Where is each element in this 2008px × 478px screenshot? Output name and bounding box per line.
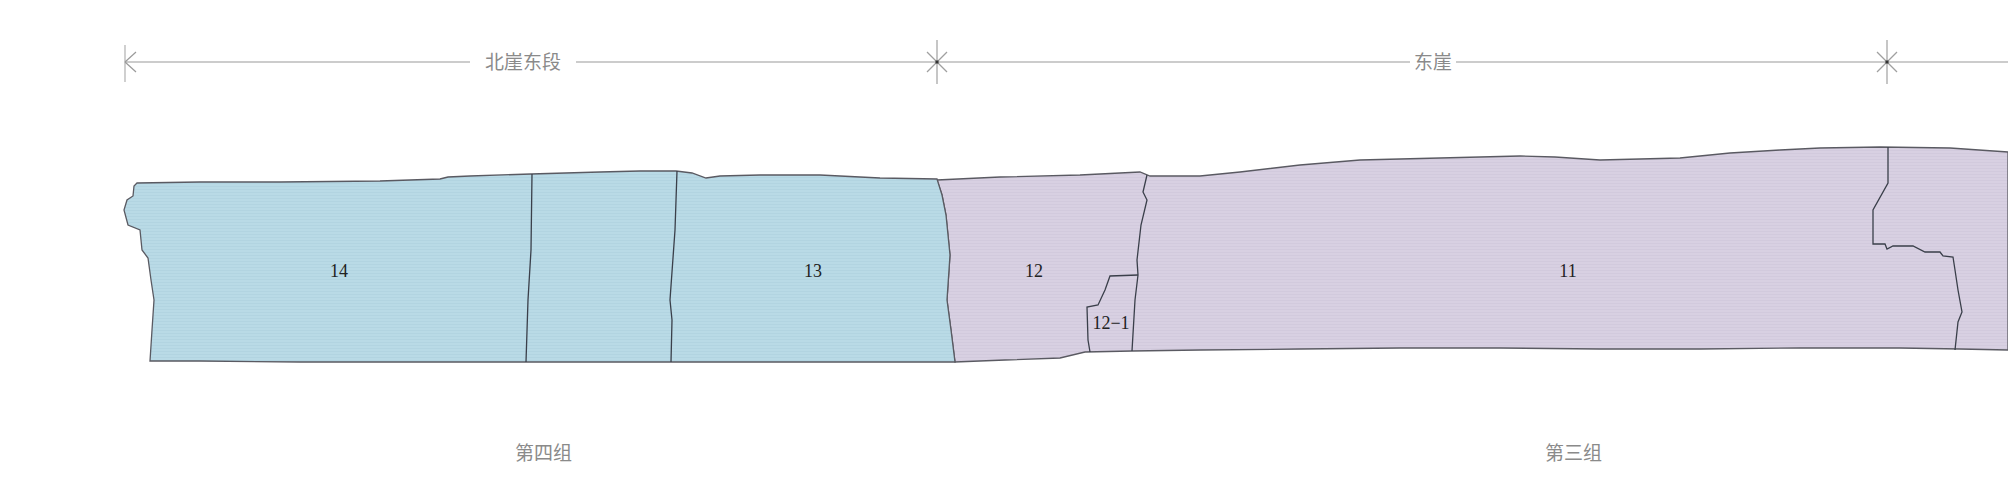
- section-label-11: 11: [1559, 261, 1576, 281]
- group-4-region: [124, 171, 955, 362]
- group-caption-4: 第四组: [515, 442, 572, 464]
- dimension-bar: 北崖东段 东崖: [125, 40, 2008, 84]
- segment-label-east-cliff: 东崖: [1414, 51, 1452, 73]
- segment-label-north-cliff-east: 北崖东段: [485, 51, 561, 73]
- cliff-section-diagram: 北崖东段 东崖 14 13 12 12−1 11 第四组 第三组: [0, 0, 2008, 478]
- left-arrow-tick-icon: [125, 45, 136, 82]
- section-label-12-1: 12−1: [1092, 313, 1129, 333]
- section-outline-group4: [124, 171, 955, 362]
- section-label-12: 12: [1025, 261, 1043, 281]
- section-label-13: 13: [804, 261, 822, 281]
- group-caption-3: 第三组: [1545, 442, 1602, 464]
- section-label-14: 14: [330, 261, 348, 281]
